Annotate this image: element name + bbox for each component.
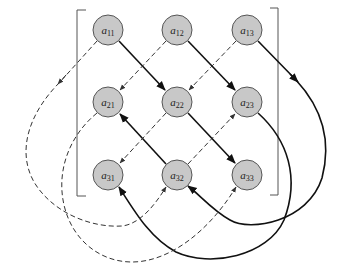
left-bracket: [77, 10, 86, 196]
node-a13: a13: [232, 15, 262, 45]
edge-a23-a31: [119, 113, 291, 259]
node-a22: a22: [162, 87, 192, 117]
edge-a11-a22: [119, 41, 165, 90]
determinant-diagram: a11 a12 a13 a21 a22 a23 a31 a32 a33: [0, 0, 345, 272]
node-a32: a32: [162, 160, 192, 190]
node-a21: a21: [93, 87, 123, 117]
right-bracket: [270, 8, 278, 195]
edge-a13-a32: [188, 41, 326, 225]
edge-a32-a21: [120, 114, 166, 164]
node-a31: a31: [93, 160, 123, 190]
arrow-a13-mid: [290, 74, 298, 82]
node-a12: a12: [162, 15, 192, 45]
edge-a12-a23: [188, 41, 235, 90]
node-a33: a33: [232, 160, 262, 190]
edge-a22-a33: [188, 113, 235, 163]
node-a23: a23: [232, 87, 262, 117]
node-a11: a11: [93, 15, 123, 45]
